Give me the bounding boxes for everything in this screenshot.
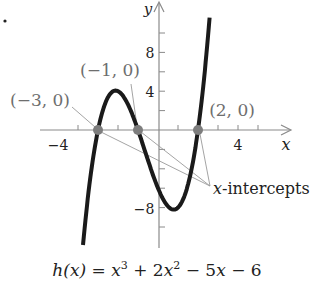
y-tick-label-4: 4 <box>146 84 155 100</box>
leader-intercept-neg1 <box>141 132 210 186</box>
x-axis-label: x <box>281 135 290 154</box>
x-ticks <box>78 125 258 130</box>
leader-intercept-2 <box>200 134 210 186</box>
intercept-point-neg1 <box>133 125 143 135</box>
eq-minus6: − 6 <box>226 260 262 280</box>
intercept-point-2 <box>193 125 203 135</box>
x-tick-label-neg4: −4 <box>48 137 69 153</box>
eq-plus2: + 2 <box>128 260 164 280</box>
y-tick-label-neg8: −8 <box>134 201 155 217</box>
eq-x2: x <box>164 260 174 280</box>
annotation-rest: -intercepts <box>222 179 310 198</box>
label-intercept-neg1: (−1, 0) <box>80 60 140 80</box>
eq-x1: x <box>111 260 121 280</box>
annotation-italic-x: x <box>213 179 222 198</box>
intercept-point-neg3 <box>93 125 103 135</box>
eq-exp2: 2 <box>173 259 180 272</box>
polynomial-graph: −4 4 8 4 −8 x y (−3, 0) (−1, 0) (2, 0) x… <box>0 0 328 282</box>
label-intercept-neg3: (−3, 0) <box>10 90 70 110</box>
y-tick-label-8: 8 <box>146 45 155 61</box>
eq-minus5: − 5 <box>180 260 216 280</box>
x-tick-label-4: 4 <box>234 137 243 153</box>
axes <box>40 2 291 248</box>
label-intercept-2: (2, 0) <box>209 100 255 120</box>
eq-lhs: h(x) = <box>52 260 111 280</box>
eq-exp1: 3 <box>121 259 128 272</box>
eq-x3: x <box>216 260 226 280</box>
figure-bullet <box>3 19 6 22</box>
function-equation: h(x) = x3 + 2x2 − 5x − 6 <box>52 259 261 280</box>
x-intercepts-annotation: x-intercepts <box>213 179 310 198</box>
y-axis-label: y <box>143 0 153 18</box>
leader-label-neg3 <box>72 107 95 127</box>
